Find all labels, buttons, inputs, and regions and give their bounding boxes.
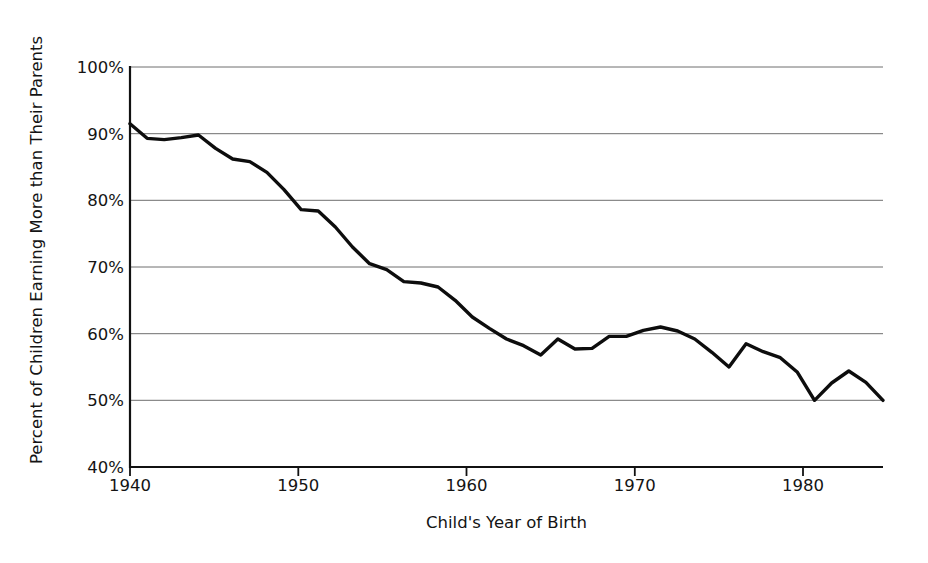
x-tick-1950: 1950	[277, 476, 319, 495]
x-tick-1980: 1980	[782, 476, 824, 495]
gridlines	[130, 67, 883, 400]
x-axis-label: Child's Year of Birth	[130, 513, 883, 532]
x-tick-marks	[130, 467, 803, 476]
chart-container: Percent of Children Earning More than Th…	[0, 0, 928, 563]
x-tick-1960: 1960	[446, 476, 488, 495]
x-tick-1940: 1940	[109, 476, 151, 495]
x-tick-1970: 1970	[614, 476, 656, 495]
data-series-line	[130, 124, 883, 401]
